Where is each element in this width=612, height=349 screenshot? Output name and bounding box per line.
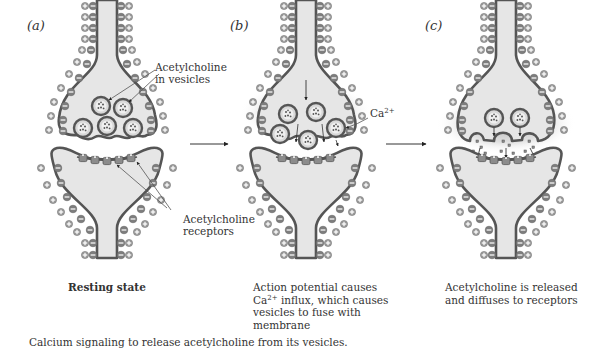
panel-b-label: (b) <box>230 18 248 33</box>
vesicle-icon <box>124 119 142 137</box>
vesicles-annotation-line2: in vesicles <box>155 73 227 85</box>
panel-c-label: (c) <box>425 18 442 33</box>
panel-b-synapse <box>236 0 375 259</box>
panel-a-label: (a) <box>27 18 45 33</box>
panel-b-caption-line3: vesicles to fuse with <box>253 306 388 319</box>
figure-caption: Calcium signaling to release acetylcholi… <box>29 336 348 349</box>
ion-charge: 2+ <box>267 293 277 301</box>
ion-base: Ca <box>253 294 267 306</box>
vesicles-annotation: Acetylcholine in vesicles <box>155 61 227 85</box>
ion-charge: 2+ <box>384 107 394 115</box>
presynaptic-terminal <box>258 0 356 139</box>
vesicle-icon <box>299 131 317 149</box>
vesicles-annotation-line1: Acetylcholine <box>155 61 227 73</box>
panel-c-caption: Acetylcholine is released and diffuses t… <box>445 281 578 306</box>
panel-b-caption: Action potential causes Ca2+ influx, whi… <box>253 281 388 331</box>
receptors-annotation-line2: receptors <box>183 225 255 237</box>
postsynaptic-terminal <box>52 148 163 258</box>
panel-b-caption-line4: membrane <box>253 319 388 332</box>
caption-text: influx, which causes <box>278 294 389 306</box>
panel-c-caption-line1: Acetylcholine is released <box>445 281 578 294</box>
panel-a-synapse <box>37 0 176 259</box>
vesicle-icon <box>511 109 529 127</box>
vesicle-icon <box>98 117 116 135</box>
postsynaptic-terminal <box>251 148 362 258</box>
calcium-ion-label: Ca2+ <box>370 107 395 119</box>
panel-c-caption-line2: and diffuses to receptors <box>445 294 578 307</box>
panel-b-caption-line2: Ca2+ influx, which causes <box>253 294 388 307</box>
receptors-annotation: Acetylcholine receptors <box>183 213 255 237</box>
vesicle-icon <box>327 119 345 137</box>
panel-a-caption: Resting state <box>68 281 146 294</box>
postsynaptic-terminal <box>451 148 562 258</box>
panel-c-synapse <box>436 0 576 259</box>
vesicle-icon <box>485 109 503 127</box>
vesicle-icon <box>92 97 110 115</box>
vesicle-icon <box>74 119 92 137</box>
receptors-annotation-line1: Acetylcholine <box>183 213 255 225</box>
ion-base: Ca <box>370 107 384 119</box>
presynaptic-terminal <box>458 0 555 141</box>
vesicle-icon <box>279 105 297 123</box>
vesicle-icon <box>271 125 289 143</box>
panel-b-caption-line1: Action potential causes <box>253 281 388 294</box>
vesicle-icon <box>307 103 325 121</box>
